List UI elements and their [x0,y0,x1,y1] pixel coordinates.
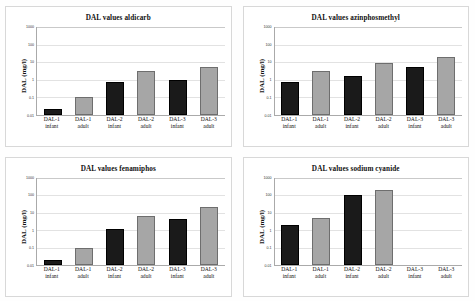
bar-infant[interactable] [344,76,362,114]
plot-area [36,178,225,267]
bar-slot [37,27,68,115]
bar-slot [306,178,337,266]
bar-slot [100,178,131,266]
bar-infant[interactable] [44,109,62,114]
x-tick-line1: DAL-1 [75,116,91,122]
x-tick-label: DAL-3infant [399,266,430,280]
bar-slot [431,178,462,266]
bar-infant[interactable] [344,195,362,265]
x-tick-line2: infant [99,123,130,130]
x-tick-line1: DAL-3 [201,266,217,272]
y-tick-label: 100 [28,43,34,47]
bar-infant[interactable] [106,82,124,114]
chart-cell-0: DAL values aldicarb DAL (mg/l) 0.010.111… [0,0,238,151]
x-axis-labels: DAL-1infantDAL-1adultDAL-2infantDAL-2adu… [274,116,463,142]
bar-adult[interactable] [200,67,218,114]
x-tick-line1: DAL-1 [313,116,329,122]
bar-adult[interactable] [312,218,330,265]
bar-slot [131,178,162,266]
y-tick-label: 100 [28,193,34,197]
bar-slot [368,178,399,266]
bar-adult[interactable] [137,71,155,114]
bar-infant[interactable] [281,82,299,114]
x-tick-label: DAL-2adult [368,116,399,130]
bar-adult[interactable] [312,71,330,114]
y-tick-label: 100 [266,193,272,197]
x-tick-line1: DAL-2 [344,116,360,122]
bar-slot [131,27,162,115]
bar-series [37,27,225,115]
plot-area [274,27,463,116]
plot-area-wrapper: 0.010.11101001000 [22,27,225,116]
x-tick-line1: DAL-1 [281,116,297,122]
x-tick-line1: DAL-1 [75,266,91,272]
bar-slot [337,178,368,266]
bar-adult[interactable] [375,63,393,115]
chart-title: DAL values azinphosmethyl [244,14,469,22]
y-tick-label: 0.01 [27,114,34,118]
x-tick-label: DAL-2adult [130,116,161,130]
x-tick-line1: DAL-3 [169,266,185,272]
plot-area-wrapper: 0.010.11101001000 [260,27,463,116]
x-tick-line1: DAL-1 [281,266,297,272]
bar-adult[interactable] [437,57,455,115]
bar-slot [368,27,399,115]
bar-slot [37,178,68,266]
x-tick-line2: adult [368,123,399,130]
x-tick-line1: DAL-2 [375,266,391,272]
chart-title: DAL values fenamiphos [6,165,231,173]
x-tick-label: DAL-1adult [305,266,336,280]
x-tick-label: DAL-3infant [162,116,193,130]
x-tick-label: DAL-1adult [67,266,98,280]
y-axis-ticks: 0.010.11101001000 [22,178,35,267]
x-tick-line1: DAL-3 [169,116,185,122]
x-tick-line2: infant [36,123,67,130]
y-tick-label: 0.01 [265,264,272,268]
bar-infant[interactable] [44,260,62,265]
chart-cell-3: DAL values sodium cyanide DAL (mg/l) 0.0… [238,151,475,301]
y-axis-ticks: 0.010.11101001000 [22,27,35,116]
bar-infant[interactable] [169,80,187,115]
y-axis-ticks: 0.010.11101001000 [260,178,273,267]
x-tick-label: DAL-3adult [431,116,462,130]
x-tick-line2: infant [162,123,193,130]
x-tick-line2: adult [67,123,98,130]
x-tick-label: DAL-2infant [336,266,367,280]
chart-title: DAL values sodium cyanide [244,165,469,173]
y-tick-label: 0.01 [265,114,272,118]
y-tick-label: 1000 [264,25,272,29]
x-axis-labels: DAL-1infantDAL-1adultDAL-2infantDAL-2adu… [36,266,225,292]
x-tick-label: DAL-2infant [99,116,130,130]
y-tick-label: 1000 [26,25,34,29]
bar-adult[interactable] [75,97,93,115]
plot-area-wrapper: 0.010.11101001000 [260,178,463,267]
bar-adult[interactable] [75,248,93,265]
bar-slot [162,178,193,266]
y-tick-label: 0.01 [27,264,34,268]
y-tick-label: 0.1 [267,96,272,100]
y-axis-ticks: 0.010.11101001000 [260,27,273,116]
chart-title: DAL values aldicarb [6,14,231,22]
bar-slot [400,178,431,266]
bar-slot [431,27,462,115]
bar-series [275,27,463,115]
x-tick-line2: adult [305,123,336,130]
y-tick-label: 10 [268,211,272,215]
y-tick-label: 10 [268,60,272,64]
x-tick-line1: DAL-3 [407,266,423,272]
x-tick-line1: DAL-2 [138,266,154,272]
x-tick-label: DAL-3infant [399,116,430,130]
bar-adult[interactable] [137,216,155,265]
bar-infant[interactable] [106,229,124,265]
bar-infant[interactable] [406,67,424,114]
y-tick-label: 1 [270,229,272,233]
chart-frame-sodium-cyanide: DAL values sodium cyanide DAL (mg/l) 0.0… [243,157,470,298]
y-tick-label: 10 [30,60,34,64]
bar-slot [68,27,99,115]
bar-slot [275,27,306,115]
x-tick-label: DAL-1infant [274,116,305,130]
bar-adult[interactable] [375,190,393,265]
bar-infant[interactable] [281,225,299,265]
bar-infant[interactable] [169,219,187,265]
bar-adult[interactable] [200,207,218,265]
